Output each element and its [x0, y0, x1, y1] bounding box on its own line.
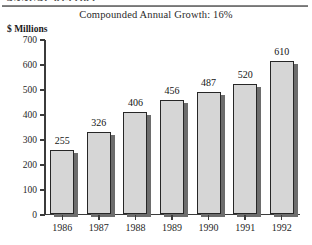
bar: 456	[160, 100, 184, 214]
x-tick-label: 1988	[125, 222, 145, 233]
bar: 610	[270, 61, 294, 214]
y-tick-label: 0	[32, 210, 37, 220]
x-tick-label: 1987	[89, 222, 109, 233]
y-tick-mark	[40, 39, 45, 41]
bar-value-label: 610	[274, 46, 289, 57]
bar-body	[270, 61, 294, 214]
bar-value-label: 520	[238, 69, 253, 80]
bar-body	[50, 150, 74, 214]
y-tick-mark	[40, 64, 45, 66]
y-axis-label: $ Millions	[7, 24, 47, 34]
bar-body	[87, 132, 111, 214]
x-tick-mark	[98, 215, 100, 220]
y-tick-mark	[40, 114, 45, 116]
bar-value-label: 255	[55, 135, 70, 146]
bar-body	[197, 92, 221, 214]
x-tick-label: 1986	[52, 222, 72, 233]
bar-value-label: 326	[91, 117, 106, 128]
bar-value-label: 487	[201, 77, 216, 88]
x-tick-mark	[281, 215, 283, 220]
x-tick-mark	[171, 215, 173, 220]
y-tick-label: 200	[23, 160, 37, 170]
x-tick-mark	[208, 215, 210, 220]
x-tick-label: 1990	[199, 222, 219, 233]
x-tick-mark	[135, 215, 137, 220]
bar: 520	[233, 84, 257, 214]
x-tick-label: 1992	[272, 222, 292, 233]
bar-body	[123, 112, 147, 214]
y-tick-mark	[40, 164, 45, 166]
bar-value-label: 406	[128, 97, 143, 108]
bar: 326	[87, 132, 111, 214]
x-tick-mark	[244, 215, 246, 220]
y-tick-label: 700	[23, 35, 37, 45]
y-tick-label: 300	[23, 135, 37, 145]
x-tick-label: 1991	[235, 222, 255, 233]
x-tick-mark	[62, 215, 64, 220]
bar-body	[233, 84, 257, 214]
y-tick-mark	[40, 189, 45, 191]
cropped-header-text: ANNUAL REPORT	[6, 0, 97, 1]
header-divider-rule	[2, 5, 308, 7]
plot-area: 0100200300400500600700 25532640645648752…	[44, 40, 300, 215]
bar: 487	[197, 92, 221, 214]
y-tick-mark	[40, 139, 45, 141]
y-tick-mark	[40, 89, 45, 91]
chart-title: Compounded Annual Growth: 16%	[0, 9, 312, 20]
y-tick-label: 400	[23, 110, 37, 120]
y-tick-label: 100	[23, 185, 37, 195]
bar-body	[160, 100, 184, 214]
y-tick-label: 500	[23, 85, 37, 95]
y-tick-mark	[40, 214, 45, 216]
y-tick-label: 600	[23, 60, 37, 70]
bar-value-label: 456	[165, 85, 180, 96]
x-tick-label: 1989	[162, 222, 182, 233]
bar: 255	[50, 150, 74, 214]
chart-page: ANNUAL REPORT Compounded Annual Growth: …	[0, 0, 312, 245]
bar: 406	[123, 112, 147, 214]
